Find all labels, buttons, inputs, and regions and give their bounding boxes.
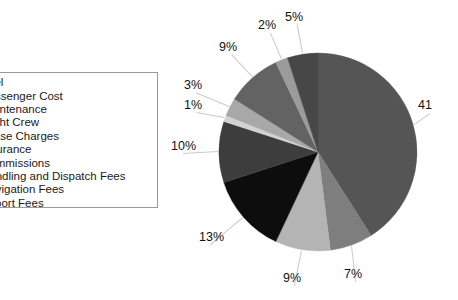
legend-item[interactable]: Navigation Fees [0, 183, 157, 196]
slice-value-label: 10% [171, 140, 196, 153]
legend-item[interactable]: Maintenance [0, 103, 157, 116]
slice-value-label: 5% [285, 11, 303, 24]
slice-value-label: 2% [258, 19, 276, 32]
legend-item[interactable]: Airport Fees [0, 197, 157, 210]
legend-label: Handling and Dispatch Fees [0, 170, 125, 183]
legend-item[interactable]: Fuel [0, 76, 157, 89]
legend-label: Fuel [0, 76, 3, 89]
slice-value-label: 1% [184, 99, 202, 112]
slice-value-label: 3% [184, 79, 202, 92]
legend-item[interactable]: Flight Crew [0, 116, 157, 129]
legend-item[interactable]: Lease Charges [0, 130, 157, 143]
slice-value-label: 9% [283, 272, 301, 285]
legend-label: Maintenance [0, 103, 47, 116]
legend-label: Commissions [0, 157, 50, 170]
legend-label: Airport Fees [0, 197, 44, 210]
slice-value-label: 9% [219, 41, 237, 54]
pie-chart [218, 52, 418, 252]
pie-svg [218, 52, 418, 252]
label-leader-line [297, 25, 303, 53]
legend-item[interactable]: Handling and Dispatch Fees [0, 170, 157, 183]
legend-label: Navigation Fees [0, 183, 64, 196]
legend-label: Passenger Cost [0, 90, 63, 103]
slice-value-label: 13% [199, 231, 224, 244]
legend-item[interactable]: Insurance [0, 143, 157, 156]
legend-label: Insurance [0, 143, 32, 156]
chart-canvas: Fuel Passenger Cost Maintenance Flight C… [0, 0, 458, 300]
slice-value-label: 7% [344, 268, 362, 281]
legend-item[interactable]: Passenger Cost [0, 89, 157, 102]
legend-label: Lease Charges [0, 130, 59, 143]
legend-label: Flight Crew [0, 116, 39, 129]
slice-value-label: 41 [418, 99, 432, 112]
legend-item[interactable]: Commissions [0, 156, 157, 169]
chart-legend: Fuel Passenger Cost Maintenance Flight C… [0, 72, 158, 208]
